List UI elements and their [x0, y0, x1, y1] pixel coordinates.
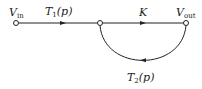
- label-t1: T1(p): [45, 5, 72, 19]
- signal-flow-graph: Vin Vout T1(p) K T2(p): [0, 0, 202, 89]
- node-mid: [98, 21, 103, 26]
- arrow-icon: [140, 21, 146, 25]
- label-t2: T2(p): [127, 71, 154, 85]
- label-k: K: [138, 6, 148, 19]
- arrow-icon: [140, 58, 146, 62]
- branch-t2-arc: [100, 26, 186, 61]
- node-vout: [184, 21, 189, 26]
- label-vin: Vin: [9, 6, 24, 20]
- node-vin: [14, 21, 19, 26]
- arrow-icon: [60, 21, 66, 25]
- label-vout: Vout: [176, 6, 196, 20]
